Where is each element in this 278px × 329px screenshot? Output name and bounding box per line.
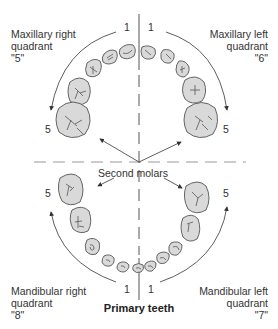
label-maxillary-left: Maxillary left quadrant "6" [210, 28, 268, 64]
num-maxillary-right-end: 5 [45, 123, 51, 135]
mandibular-left-teeth [133, 182, 209, 273]
mandibular-right-teeth [58, 174, 129, 272]
num-maxillary-left-end: 5 [223, 123, 229, 135]
num-maxillary-left-start: 1 [148, 21, 154, 33]
pointer-arrow-upper-right [100, 139, 139, 162]
pointer-arrow-upper-left [139, 142, 181, 162]
maxillary-right-line2: quadrant [11, 40, 76, 52]
maxillary-right-line1: Maxillary right [11, 28, 76, 40]
pointer-arrow-lower-right [98, 178, 114, 186]
num-mandibular-right-end: 5 [45, 187, 51, 199]
mandibular-right-line1: Mandibular right [11, 285, 86, 297]
pointer-arrow-lower-left [164, 178, 182, 188]
num-maxillary-right-start: 1 [124, 21, 130, 33]
maxillary-left-line1: Maxillary left [210, 28, 268, 40]
num-mandibular-left-end: 5 [223, 187, 229, 199]
mandibular-left-line1: Mandibular left [199, 285, 268, 297]
maxillary-right-code: "5" [11, 52, 76, 64]
maxillary-left-line2: quadrant [210, 40, 268, 52]
second-molars-label: Second molars [98, 167, 168, 179]
label-maxillary-right: Maxillary right quadrant "5" [11, 28, 76, 64]
maxillary-left-code: "6" [210, 52, 268, 64]
maxillary-left-teeth [141, 46, 218, 138]
num-mandibular-right-start: 1 [124, 283, 130, 295]
figure-caption: Primary teeth [0, 302, 278, 314]
num-mandibular-left-start: 1 [148, 283, 154, 295]
